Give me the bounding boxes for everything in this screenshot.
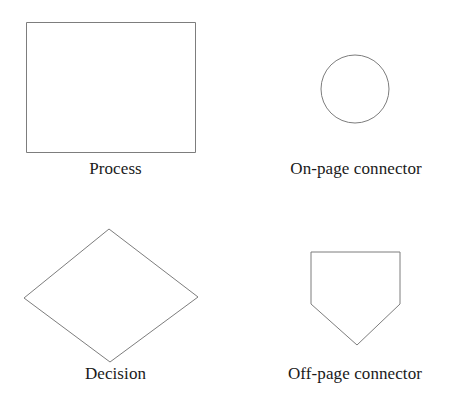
- decision-diamond-shape: [20, 225, 202, 366]
- off-page-connector-pentagon-shape: [307, 247, 404, 348]
- process-label: Process: [0, 160, 231, 178]
- on-page-connector-circle-shape: [317, 51, 393, 127]
- symbol-cell-decision: Decision: [0, 202, 231, 405]
- on-page-connector-label: On-page connector: [231, 160, 462, 178]
- symbol-cell-process: Process: [0, 0, 231, 202]
- decision-label: Decision: [0, 365, 231, 383]
- off-page-connector-label: Off-page connector: [231, 365, 462, 383]
- process-rectangle-shape: [22, 18, 200, 157]
- flowchart-symbol-legend: Process On-page connector Decision Off-p…: [0, 0, 462, 405]
- symbol-cell-off-page-connector: Off-page connector: [231, 202, 462, 405]
- symbol-cell-on-page-connector: On-page connector: [231, 0, 462, 202]
